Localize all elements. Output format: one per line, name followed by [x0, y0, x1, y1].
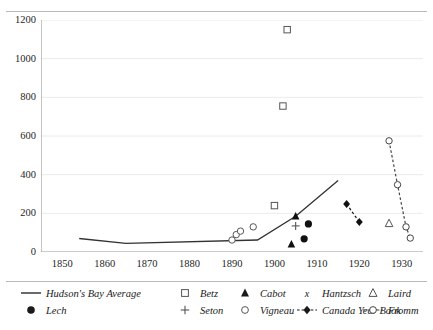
x-tick-label: 1890 — [212, 259, 252, 270]
series-line-hudson-s-bay-average — [79, 180, 338, 243]
data-point-filled-triangle — [288, 240, 296, 247]
legend-item-label: Laird — [388, 288, 411, 299]
chart-legend: Hudson's Bay AverageBetzCabotxHantzschLa… — [6, 287, 427, 327]
open-triangle-icon — [362, 287, 384, 299]
x-tick-label: 1860 — [85, 259, 125, 270]
legend-item[interactable]: xHantzsch — [296, 287, 361, 299]
legend-item-label: Hantzsch — [322, 288, 361, 299]
data-point-open-circle — [237, 228, 243, 234]
legend-item[interactable]: Betz — [174, 287, 218, 299]
data-point-open-square — [284, 26, 290, 32]
chart-figure: xx 020040060080010001200 185018601870188… — [0, 0, 433, 330]
legend-item-label: Fromm — [388, 305, 419, 316]
data-point-open-circle — [386, 138, 392, 144]
data-point-open-square — [271, 202, 277, 208]
data-point-open-circle — [229, 237, 235, 243]
data-point-plus — [292, 222, 300, 230]
x-tick-label: 1920 — [339, 259, 379, 270]
x-tick-label: 1900 — [254, 259, 294, 270]
x-tick-label: 1870 — [127, 259, 167, 270]
top-divider — [6, 11, 427, 12]
x-tick-label: 1910 — [297, 259, 337, 270]
y-tick-label: 400 — [2, 170, 36, 181]
legend-item-label: Hudson's Bay Average — [46, 288, 141, 299]
plus-icon — [174, 304, 196, 316]
data-point-filled-diamond — [356, 218, 363, 226]
y-tick-label: 600 — [2, 131, 36, 142]
x-icon: x — [296, 287, 318, 299]
plot-area: xx — [41, 20, 423, 252]
data-point-open-circle — [403, 224, 409, 230]
x-tick-label: 1930 — [382, 259, 422, 270]
x-tick-label: 1850 — [42, 259, 82, 270]
data-point-open-circle — [394, 182, 400, 188]
legend-item[interactable]: Seton — [174, 304, 223, 316]
data-point-open-triangle — [385, 219, 393, 226]
dashed-diamond-icon — [296, 304, 318, 316]
legend-item-label: Lech — [46, 305, 66, 316]
legend-item[interactable]: Hudson's Bay Average — [20, 287, 141, 299]
filled-circle-icon — [20, 304, 42, 316]
legend-item[interactable]: Cabot — [234, 287, 286, 299]
legend-item-label: Betz — [200, 288, 218, 299]
legend-divider — [6, 281, 427, 282]
dashed-open-circle-icon — [362, 304, 384, 316]
data-point-filled-diamond — [343, 200, 350, 208]
legend-item[interactable]: Vigneau — [234, 304, 294, 316]
solid-line-icon — [20, 287, 42, 299]
legend-item[interactable]: Laird — [362, 287, 411, 299]
y-tick-label: 1200 — [2, 15, 36, 26]
filled-triangle-icon — [234, 287, 256, 299]
y-tick-label: 200 — [2, 208, 36, 219]
open-circle-icon — [234, 304, 256, 316]
y-tick-label: 800 — [2, 92, 36, 103]
y-tick-label: 0 — [2, 247, 36, 258]
data-point-open-circle — [407, 235, 413, 241]
plot-svg: xx — [41, 20, 423, 252]
legend-item-label: Cabot — [260, 288, 286, 299]
data-point-open-square — [280, 103, 286, 109]
legend-item[interactable]: Fromm — [362, 304, 419, 316]
data-point-open-circle — [250, 224, 256, 230]
legend-item-label: Seton — [200, 305, 223, 316]
svg-text:x: x — [304, 288, 310, 299]
data-point-filled-circle — [301, 235, 308, 242]
legend-item[interactable]: Lech — [20, 304, 66, 316]
y-tick-label: 1000 — [2, 54, 36, 65]
x-tick-label: 1880 — [170, 259, 210, 270]
legend-item-label: Vigneau — [260, 305, 294, 316]
open-square-icon — [174, 287, 196, 299]
data-point-filled-circle — [305, 220, 312, 227]
